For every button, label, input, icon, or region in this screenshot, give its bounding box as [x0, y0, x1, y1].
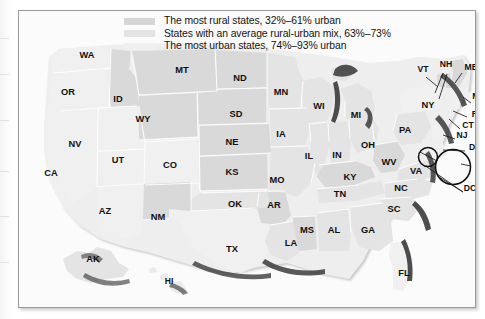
- state-label-wa: WA: [80, 50, 95, 60]
- state-label-wy: WY: [136, 114, 152, 124]
- state-label-ks: KS: [226, 167, 239, 177]
- state-label-mi: MI: [351, 110, 361, 120]
- legend-item-most-rural: The most rural states, 32%–61% urban: [123, 15, 433, 28]
- state-label-ut: UT: [112, 155, 125, 165]
- state-label-nv: NV: [69, 139, 83, 149]
- state-label-al: AL: [328, 225, 341, 235]
- state-label-de: DE: [469, 142, 475, 152]
- state-label-ga: GA: [361, 225, 375, 235]
- legend-label-average-mix: States with an average rural-urban mix, …: [164, 28, 391, 41]
- state-label-oh: OH: [361, 140, 375, 150]
- state-label-sd: SD: [230, 109, 243, 119]
- legend-label-most-rural: The most rural states, 32%–61% urban: [164, 15, 341, 28]
- state-label-wv: WV: [382, 157, 398, 167]
- state-label-la: LA: [285, 238, 298, 248]
- state-label-ct: CT: [462, 120, 474, 130]
- state-label-nm: NM: [151, 212, 166, 222]
- state-label-pa: PA: [399, 125, 412, 135]
- state-label-id: ID: [113, 94, 123, 104]
- legend-item-most-urban: The most urban states, 74%–93% urban: [123, 40, 433, 53]
- legend-swatch-average-mix: [124, 30, 155, 37]
- map-figure: WAORIDMTNDMNWIMINVWYSDIAUTCONEILINOHCAKS…: [18, 10, 476, 308]
- state-label-tx: TX: [226, 244, 239, 254]
- state-label-ar: AR: [267, 200, 281, 210]
- state-label-ak: AK: [86, 254, 100, 264]
- state-label-nj: NJ: [457, 130, 468, 140]
- legend-swatch-most-urban: [124, 43, 155, 50]
- state-label-in: IN: [332, 150, 342, 160]
- state-label-fl: FL: [398, 268, 410, 278]
- state-label-dc: DC: [464, 183, 475, 193]
- state-label-ny: NY: [422, 100, 436, 110]
- state-label-tn: TN: [334, 189, 347, 199]
- state-label-az: AZ: [99, 206, 112, 216]
- state-label-vt: VT: [418, 64, 430, 74]
- map-legend: The most rural states, 32%–61% urban Sta…: [123, 15, 433, 57]
- state-label-mo: MO: [270, 175, 285, 185]
- state-label-ms: MS: [300, 225, 314, 235]
- legend-swatch-most-rural: [124, 18, 155, 25]
- legend-label-most-urban: The most urban states, 74%–93% urban: [164, 40, 346, 53]
- state-label-ky: KY: [344, 172, 358, 182]
- state-label-mt: MT: [175, 65, 189, 75]
- state-label-sc: SC: [388, 204, 401, 214]
- state-label-me: ME: [465, 62, 475, 72]
- state-label-mn: MN: [274, 87, 289, 97]
- state-label-nh: NH: [440, 59, 452, 69]
- state-label-nc: NC: [394, 183, 408, 193]
- state-label-hi: HI: [165, 276, 174, 286]
- state-label-va: VA: [410, 166, 423, 176]
- state-label-ca: CA: [44, 168, 58, 178]
- legend-item-average-mix: States with an average rural-urban mix, …: [123, 28, 433, 41]
- state-label-ia: IA: [276, 129, 286, 139]
- state-label-ne: NE: [226, 137, 239, 147]
- map-canvas: WAORIDMTNDMNWIMINVWYSDIAUTCONEILINOHCAKS…: [19, 11, 475, 307]
- state-label-wi: WI: [313, 101, 324, 111]
- state-label-ok: OK: [228, 199, 242, 209]
- state-label-nd: ND: [233, 73, 247, 83]
- state-label-ma: MA: [472, 91, 475, 101]
- state-label-ri: RI: [472, 109, 475, 119]
- scanned-page-edge: [0, 0, 14, 319]
- state-label-or: OR: [61, 87, 75, 97]
- state-label-co: CO: [163, 160, 177, 170]
- state-label-il: IL: [305, 151, 314, 161]
